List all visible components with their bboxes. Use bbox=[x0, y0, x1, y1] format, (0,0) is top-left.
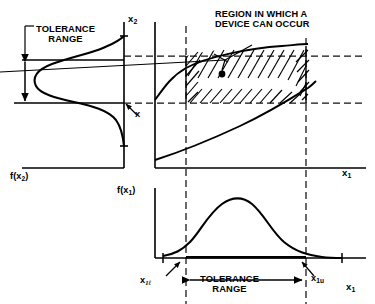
tolerance-range-label-x1: TOLERANCE RANGE bbox=[200, 274, 259, 294]
x1-lower-limit-label: x1ℓ bbox=[140, 276, 152, 286]
region-hatching-bottom bbox=[190, 89, 300, 103]
region-label: REGION IN WHICH A DEVICE CAN OCCUR bbox=[215, 10, 310, 30]
right-panel-region bbox=[0, 22, 366, 304]
density-label-x2: f(x2) bbox=[10, 172, 28, 182]
diagram-canvas bbox=[0, 0, 375, 304]
axis-label-x1-right: x1 bbox=[342, 168, 351, 179]
density-label-x1: f(x1) bbox=[117, 186, 135, 196]
tolerance-diagram: TOLERANCE RANGE x2 f(x2) x REGION IN WHI… bbox=[0, 0, 375, 304]
point-x-label: x bbox=[135, 110, 140, 120]
x1-lower-pointer bbox=[166, 262, 180, 276]
axis-label-x1-bottom: x1 bbox=[346, 282, 355, 293]
density-curve-x2 bbox=[35, 36, 124, 146]
region-callout-leader bbox=[225, 45, 252, 60]
tolerance-range-label-x2: TOLERANCE RANGE bbox=[36, 24, 95, 44]
x1-upper-limit-label: x1u bbox=[311, 274, 324, 284]
device-point-marker bbox=[219, 71, 226, 78]
bottom-panel-density-x1 bbox=[155, 188, 366, 280]
density-curve-x1 bbox=[163, 198, 342, 258]
axis-label-x2: x2 bbox=[128, 14, 137, 25]
